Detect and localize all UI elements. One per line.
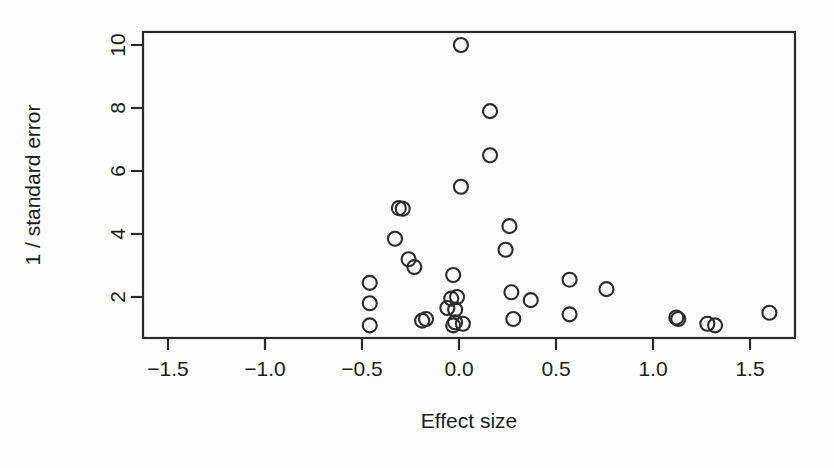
data-point [502,219,516,233]
data-point [504,285,518,299]
y-tick-label: 6 [106,165,129,177]
data-point [483,148,497,162]
data-point [363,276,377,290]
x-axis-title: Effect size [421,409,518,432]
y-axis-tick-marks [131,45,143,297]
y-axis-tick-labels: 246810 [106,33,129,303]
data-point [454,180,468,194]
y-tick-label: 2 [106,291,129,303]
x-tick-label: 1.5 [735,357,764,380]
data-point [483,104,497,118]
data-point [563,273,577,287]
data-point [524,293,538,307]
data-point [363,318,377,332]
x-tick-label: 0.0 [444,357,473,380]
x-axis-tick-marks [168,338,750,350]
x-axis-tick-labels: −1.5−1.0−0.50.00.51.01.5 [147,357,764,380]
y-axis-title: 1 / standard error [21,104,44,265]
x-tick-label: −1.0 [244,357,285,380]
data-point [563,307,577,321]
plot-frame [143,32,795,338]
funnel-plot-figure: −1.5−1.0−0.50.00.51.01.5 246810 Effect s… [0,0,834,468]
y-tick-label: 8 [106,102,129,114]
scatter-plot-canvas: −1.5−1.0−0.50.00.51.01.5 246810 Effect s… [0,0,834,468]
y-tick-label: 10 [106,33,129,56]
data-point-group [363,38,777,332]
data-point [454,38,468,52]
x-tick-label: −1.5 [147,357,188,380]
x-tick-label: −0.5 [341,357,382,380]
data-point [762,306,776,320]
x-tick-label: 1.0 [638,357,667,380]
data-point [388,232,402,246]
y-tick-label: 4 [106,228,129,240]
x-tick-label: 0.5 [541,357,570,380]
data-point [499,243,513,257]
data-point [363,296,377,310]
data-point [446,268,460,282]
data-point [599,282,613,296]
data-point [506,312,520,326]
